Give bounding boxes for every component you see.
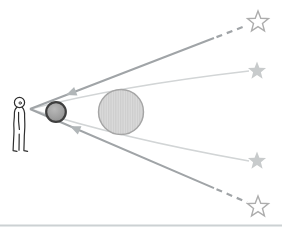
apparent-star-top-icon	[248, 11, 269, 31]
sun-disk	[99, 90, 144, 135]
apparent-sightline-bottom-dashed	[217, 189, 248, 202]
true-star-bottom-icon	[248, 152, 266, 169]
arrowhead-top-icon	[64, 87, 77, 99]
moon-disk	[46, 102, 66, 122]
person-body	[13, 107, 28, 151]
apparent-star-bottom-icon	[248, 196, 269, 216]
apparent-sightline-top-dashed	[217, 25, 248, 37]
gravitational-lensing-diagram	[0, 0, 282, 232]
diagram-canvas	[0, 0, 282, 232]
observer-person	[13, 97, 28, 151]
true-star-top-icon	[248, 62, 266, 79]
